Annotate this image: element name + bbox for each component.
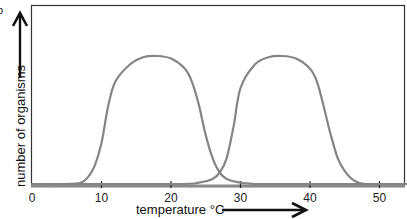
x-tick-label: 0 [29,191,36,205]
temperature-organism-chart: 01020304050 number of organisms b temper… [0,0,407,219]
series-a-curve [32,56,407,184]
x-axis-arrow-icon [222,203,306,217]
series-b-curve [32,56,407,184]
corner-mark: b [0,4,3,16]
x-tick-label: 40 [303,191,317,205]
y-axis-label: number of organisms [13,64,28,187]
x-tick-label: 30 [234,191,248,205]
plot-frame [32,6,405,187]
x-tick-label: 50 [373,191,387,205]
x-tick-label: 10 [95,191,109,205]
x-axis-label: temperature °C [136,202,224,217]
